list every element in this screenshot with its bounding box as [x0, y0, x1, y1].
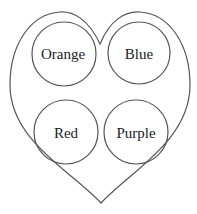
heart-outline [10, 12, 190, 203]
label-red: Red [54, 125, 78, 142]
diagram-canvas [0, 0, 197, 214]
label-purple: Purple [116, 125, 155, 142]
label-orange: Orange [41, 46, 85, 63]
label-blue: Blue [125, 46, 153, 63]
heart-diagram: Orange Blue Red Purple [0, 0, 197, 214]
